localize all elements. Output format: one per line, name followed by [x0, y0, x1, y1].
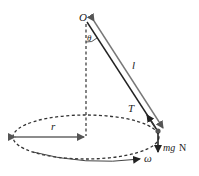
conical-pendulum-diagram: O θ l T r ω mg N [0, 0, 199, 176]
label-radius: r [51, 120, 56, 132]
label-weight-unit: N [179, 142, 186, 153]
label-angular-velocity: ω [144, 152, 152, 164]
bob-mass [155, 128, 160, 133]
label-tension: T [128, 102, 135, 114]
string [87, 22, 157, 130]
label-pivot: O [79, 11, 87, 23]
label-weight: mg [163, 142, 175, 153]
label-angle: θ [87, 33, 92, 43]
label-length: l [132, 59, 135, 71]
angular-velocity-arrow [33, 152, 140, 161]
